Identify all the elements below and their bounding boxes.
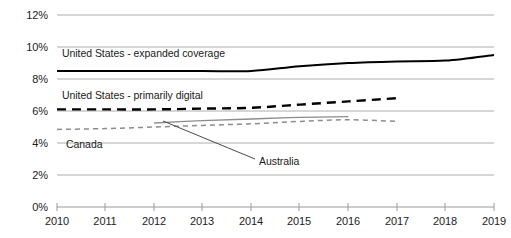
xtick-label-2010: 2010 xyxy=(35,215,79,227)
series-label-united-states-primarily-digital: United States - primarily digital xyxy=(62,89,203,101)
ytick-label-8pct: 8% xyxy=(8,73,48,85)
xtick-label-2017: 2017 xyxy=(375,215,419,227)
x-axis xyxy=(57,203,494,211)
series-label-canada: Canada xyxy=(66,138,102,150)
ytick-label-12pct: 12% xyxy=(8,9,48,21)
ytick-label-4pct: 4% xyxy=(8,137,48,149)
series-line-canada xyxy=(57,120,397,130)
xtick-label-2012: 2012 xyxy=(132,215,176,227)
ytick-label-6pct: 6% xyxy=(8,105,48,117)
xtick-label-2011: 2011 xyxy=(83,215,127,227)
xtick-label-2018: 2018 xyxy=(423,215,467,227)
series-label-united-states-expanded-coverage: United States - expanded coverage xyxy=(62,47,225,59)
australia-leader-line xyxy=(163,121,255,159)
xtick-label-2013: 2013 xyxy=(180,215,224,227)
ytick-label-0pct: 0% xyxy=(8,201,48,213)
xtick-label-2016: 2016 xyxy=(326,215,370,227)
xtick-label-2015: 2015 xyxy=(277,215,321,227)
xtick-label-2019: 2019 xyxy=(472,215,511,227)
ytick-label-2pct: 2% xyxy=(8,169,48,181)
series-label-australia: Australia xyxy=(259,155,299,167)
xtick-label-2014: 2014 xyxy=(229,215,273,227)
ytick-label-10pct: 10% xyxy=(8,41,48,53)
